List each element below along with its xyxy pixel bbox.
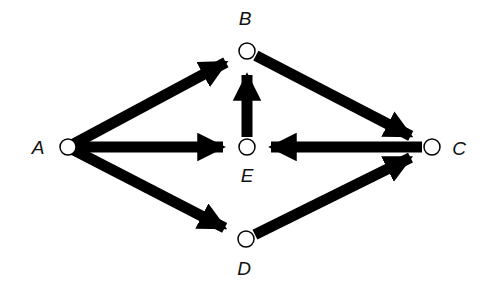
edge-d-to-c [255, 158, 411, 235]
node-d [238, 231, 254, 247]
node-e [239, 139, 255, 155]
node-label-d: D [237, 258, 251, 279]
node-a [60, 139, 76, 155]
node-label-b: B [239, 8, 252, 29]
network-diagram: ABECD [0, 0, 487, 288]
node-b [239, 43, 255, 59]
node-label-a: A [31, 137, 45, 158]
edge-a-to-b [72, 62, 226, 145]
node-label-c: C [452, 138, 466, 159]
node-c [424, 139, 440, 155]
edge-a-to-d [72, 149, 225, 228]
edge-b-to-c [256, 56, 411, 136]
node-label-e: E [241, 165, 254, 186]
